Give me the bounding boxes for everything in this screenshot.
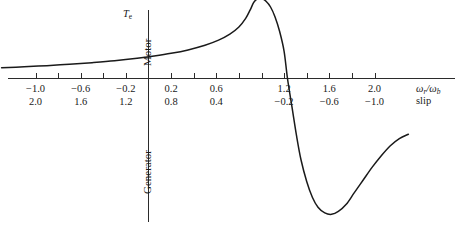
x-tick-label-secondary: 0.4 [210,97,223,108]
y-axis-title: Te [123,8,132,19]
x-tick-label-secondary: 2.0 [29,97,42,108]
x-tick-label-primary: 0.6 [210,84,223,95]
torque-speed-curve [2,0,409,214]
torque-speed-chart: Te Motor Generator −1.0−0.6−0.20.20.61.2… [0,0,463,226]
x-tick-label-primary: 1.2 [278,84,291,95]
x-tick-label-primary: 1.6 [323,84,336,95]
x-tick-label-secondary: −0.2 [275,97,294,108]
x-tick-label-primary: 2.0 [368,84,381,95]
x-tick-label-secondary: −0.6 [320,97,339,108]
x-tick-label-primary: −0.2 [116,84,135,95]
x-axis-primary-title: ωr/ωb [416,83,440,94]
x-tick-label-primary: −1.0 [26,84,45,95]
x-tick-label-secondary: 1.6 [74,97,87,108]
y-axis-region-label-generator: Generator [141,150,153,194]
y-axis-region-label-motor: Motor [141,39,153,67]
x-tick-label-primary: −0.6 [71,84,90,95]
x-axis-ticks [37,73,376,79]
x-tick-label-secondary: 1.2 [119,97,132,108]
x-axis-secondary-title: slip [416,96,431,107]
x-tick-label-secondary: 0.8 [165,97,178,108]
plot-area [0,0,463,226]
x-tick-label-secondary: −1.0 [365,97,384,108]
x-tick-label-primary: 0.2 [165,84,178,95]
